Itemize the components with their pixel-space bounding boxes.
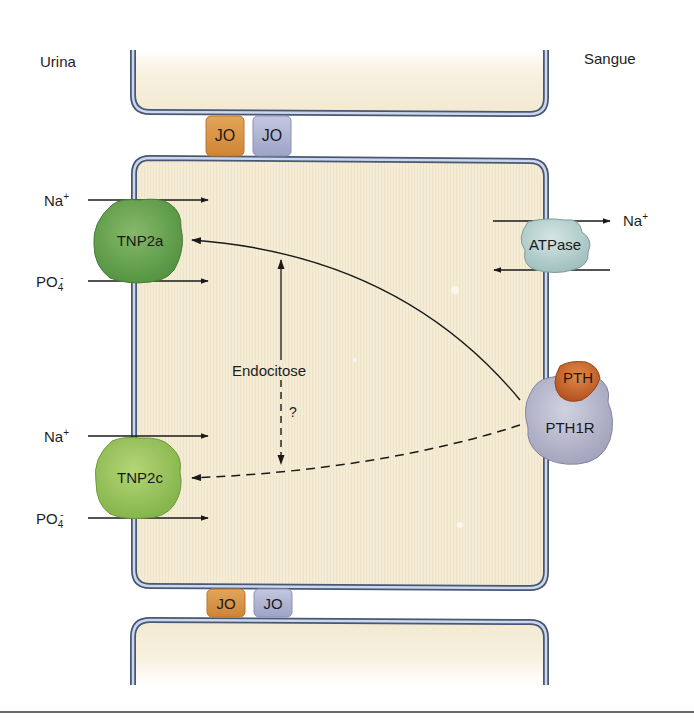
sodium-label-bottom: Na+	[44, 428, 69, 444]
urine-region-label: Urina	[40, 54, 76, 69]
sodium-label-blood: Na+	[623, 212, 648, 228]
junction-label-bottom-2: JO	[254, 596, 292, 611]
phosphate-charge: -	[60, 272, 63, 283]
junction-label-bottom-1: JO	[207, 596, 245, 611]
renal-tubule-diagram	[0, 0, 694, 721]
blood-region-label: Sangue	[584, 51, 636, 66]
phosphate-charge: -	[60, 509, 63, 520]
unknown-mechanism-label: ?	[289, 405, 297, 419]
sodium-label-top: Na+	[44, 192, 69, 208]
tnp2c-label: TNP2c	[103, 470, 177, 485]
pth-label: PTH	[553, 370, 603, 385]
phosphate-label-top: PO4-	[36, 273, 64, 293]
endocytosis-label: Endocitose	[232, 363, 306, 378]
sodium-charge: +	[63, 427, 69, 438]
junction-label-top-1: JO	[206, 128, 244, 144]
sodium-symbol: Na	[44, 192, 63, 209]
junction-label-top-2: JO	[253, 128, 291, 144]
sodium-symbol: Na	[623, 212, 642, 229]
phosphate-symbol: PO	[36, 273, 58, 290]
main-cell	[134, 158, 546, 588]
phosphate-symbol: PO	[36, 510, 58, 527]
pth1r-label: PTH1R	[530, 420, 610, 435]
phosphate-subscript: 4	[58, 282, 64, 293]
phosphate-subscript: 4	[58, 519, 64, 530]
atpase-label: ATPase	[520, 237, 590, 252]
sodium-symbol: Na	[44, 428, 63, 445]
sodium-charge: +	[642, 211, 648, 222]
sodium-charge: +	[63, 191, 69, 202]
tnp2a-label: TNP2a	[103, 233, 177, 248]
top-cell	[133, 50, 546, 114]
bottom-cell	[133, 620, 546, 685]
phosphate-label-bottom: PO4-	[36, 510, 64, 530]
